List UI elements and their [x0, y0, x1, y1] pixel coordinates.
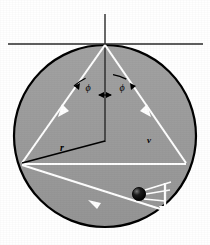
diagram-canvas: ϕ ϕ r v [0, 0, 210, 245]
falling-ball [132, 187, 145, 200]
angle-phi-left-label: ϕ [85, 82, 90, 93]
physics-diagram: ϕ ϕ r v [0, 0, 210, 245]
angle-phi-right-label: ϕ [119, 82, 124, 93]
radius-label-r: r [60, 142, 64, 153]
